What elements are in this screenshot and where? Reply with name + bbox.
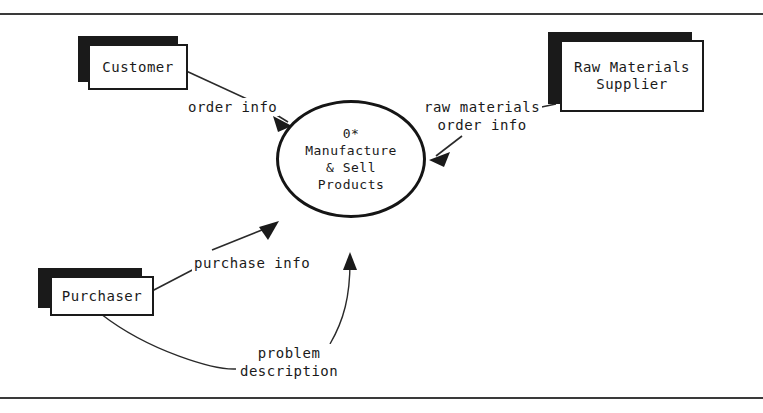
flow-line-raw-materials-b [436,136,462,156]
entity-purchaser-label: Purchaser [62,288,142,305]
diagram-canvas: 0* Manufacture & Sell Products Customer … [0,0,763,413]
process-label: 0* Manufacture & Sell Products [305,125,397,193]
process-bubble[interactable]: 0* Manufacture & Sell Products [276,100,426,218]
flow-label-order-info: order info [186,98,279,116]
flow-label-raw-materials-order-info: raw materials order info [422,98,542,134]
arrowhead-raw-materials [429,152,450,167]
flow-line-purchase-info-b [212,226,272,250]
entity-purchaser-face: Purchaser [50,276,154,316]
flow-label-purchase-info: purchase info [192,254,312,272]
entity-raw-materials-supplier-label: Raw Materials Supplier [574,59,690,93]
top-rule [0,13,763,15]
flow-line-problem-description-a [101,314,236,369]
entity-raw-materials-supplier-face: Raw Materials Supplier [560,40,704,112]
entity-customer[interactable]: Customer [78,36,190,92]
arrowhead-problem-description [343,252,357,270]
bottom-rule [0,397,763,399]
flow-label-problem-description: problem description [238,344,340,380]
entity-customer-label: Customer [102,59,173,76]
entity-raw-materials-supplier[interactable]: Raw Materials Supplier [548,32,704,112]
flow-line-problem-description-b [330,262,350,344]
entity-customer-face: Customer [88,44,188,90]
entity-purchaser[interactable]: Purchaser [38,268,154,318]
arrowhead-purchase-info [259,221,279,240]
